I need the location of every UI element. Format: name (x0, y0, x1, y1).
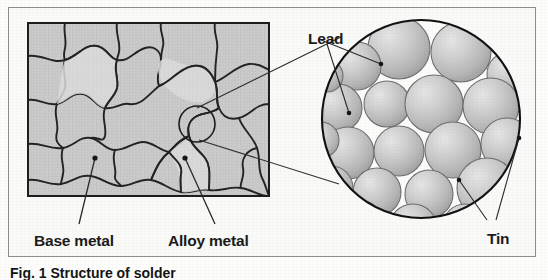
figure-illustration (9, 8, 537, 258)
label-lead: Lead (308, 30, 343, 48)
leader-dot (92, 155, 97, 160)
sphere (389, 204, 437, 252)
grain-structure-panel (28, 23, 269, 196)
figure-caption: Fig. 1 Structure of solder (10, 265, 176, 280)
leader-dot (379, 62, 384, 67)
leader-dot (182, 155, 187, 160)
sphere (364, 81, 410, 127)
label-alloy-metal: Alloy metal (168, 232, 249, 250)
label-tin: Tin (487, 230, 509, 248)
label-base-metal: Base metal (34, 232, 114, 250)
figure-frame: Base metal Alloy metal Lead Tin (8, 7, 536, 257)
leader-dot (457, 178, 462, 183)
sphere (499, 26, 535, 62)
figure-page: Base metal Alloy metal Lead Tin Fig. 1 S… (0, 0, 548, 280)
leader-dot (517, 136, 522, 141)
sphere (431, 22, 491, 82)
sphere (309, 166, 353, 210)
sphere (303, 122, 339, 158)
leader-dot (347, 111, 352, 116)
sphere (293, 152, 325, 184)
